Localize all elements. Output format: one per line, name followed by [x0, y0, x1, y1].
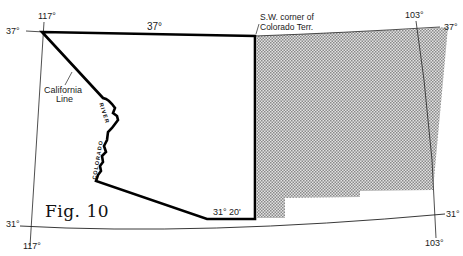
label-sw-corner-1: S.W. corner of — [260, 13, 314, 22]
label-north-border: 37° — [147, 22, 162, 32]
california-leader — [65, 72, 72, 85]
meridian-117 — [30, 22, 44, 246]
label-south-border: 31° 20' — [213, 208, 241, 217]
label-117-top: 117° — [38, 12, 56, 21]
label-37-left: 37° — [6, 27, 20, 36]
label-103-bottom: 103° — [425, 239, 444, 248]
label-31-right: 31° — [446, 210, 460, 219]
label-31-left: 31° — [6, 220, 20, 229]
shaded-region — [257, 27, 448, 218]
label-california-2: Line — [56, 95, 73, 104]
territory-boundary — [42, 32, 255, 219]
label-37-right: 37° — [444, 23, 458, 32]
label-117-bottom: 117° — [23, 242, 41, 251]
figure-caption: Fig. 10 — [45, 201, 109, 221]
sw-corner-leader — [256, 24, 259, 34]
label-sw-corner-2: Colorado Terr. — [260, 23, 313, 32]
label-103-top: 103° — [405, 11, 424, 20]
